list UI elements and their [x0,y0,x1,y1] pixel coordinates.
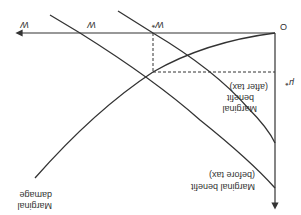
svg-text:benefit: benefit [226,93,254,103]
marginal-damage-label: damage Marginal [17,190,52,211]
x-axis-label: W [19,20,29,30]
svg-text:Marginal: Marginal [222,104,257,114]
origin-label: O [280,22,287,32]
svg-text:damage: damage [19,190,52,200]
mb-after-tax-label: (after tax) benefit Marginal [222,82,268,114]
svg-text:Marginal benefit: Marginal benefit [190,182,255,192]
w-star-label: W* [152,20,164,30]
svg-text:(before tax): (before tax) [209,170,255,180]
mb-before-tax-label: (before tax) Marginal benefit [190,170,255,192]
w-hat-label: W [86,20,96,30]
mb-after-tax-curve [118,11,275,143]
svg-text:Marginal: Marginal [17,201,52,211]
svg-text:(after tax): (after tax) [229,82,268,92]
externality-tax-diagram: O W W W* μ* (after tax) benefit Marginal… [0,0,301,215]
mu-star-label: μ* [285,78,295,88]
